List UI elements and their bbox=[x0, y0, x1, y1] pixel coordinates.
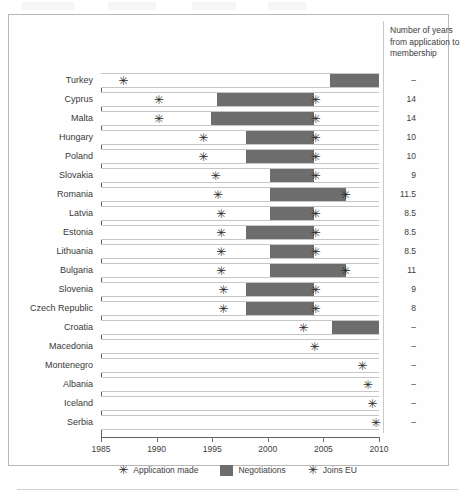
category-label: Poland bbox=[9, 149, 97, 164]
negotiations-bar bbox=[211, 112, 314, 125]
joins-eu-marker: ✳ bbox=[311, 227, 321, 239]
application-made-marker: ✳ bbox=[118, 75, 128, 87]
x-axis-tick-label: 2010 bbox=[370, 444, 389, 454]
category-label: Serbia bbox=[9, 415, 97, 430]
x-axis-line bbox=[101, 437, 380, 438]
negotiations-bar bbox=[270, 245, 314, 258]
chart-row: ✳✳ bbox=[101, 111, 379, 126]
x-axis-tick bbox=[323, 437, 324, 442]
chart-row: ✳✳ bbox=[101, 282, 379, 297]
category-label: Macedonia bbox=[9, 339, 97, 354]
eu-accession-timeline-chart: Number of years from application to memb… bbox=[8, 14, 449, 466]
x-axis-tick bbox=[268, 437, 269, 442]
years-value: 11 bbox=[390, 263, 430, 278]
application-made-marker: ✳ bbox=[211, 170, 221, 182]
row-track bbox=[101, 244, 379, 259]
legend-item: Negotiations bbox=[220, 465, 285, 476]
application-made-marker: ✳ bbox=[154, 113, 164, 125]
category-label-text: Slovenia bbox=[9, 282, 93, 297]
category-label-text: Serbia bbox=[9, 415, 93, 430]
joins-eu-marker: ✳ bbox=[311, 113, 321, 125]
application-made-marker: ✳ bbox=[363, 379, 373, 391]
application-made-marker: ✳ bbox=[198, 151, 208, 163]
negotiations-bar bbox=[270, 188, 346, 201]
years-value: – bbox=[390, 358, 430, 373]
scan-artifact bbox=[22, 2, 74, 10]
category-label-text: Albania bbox=[9, 377, 93, 392]
category-label: Malta bbox=[9, 111, 97, 126]
years-value: – bbox=[390, 415, 430, 430]
chart-row: ✳ bbox=[101, 415, 379, 430]
legend-item-label: Negotiations bbox=[238, 465, 285, 475]
negotiations-bar bbox=[246, 302, 315, 315]
category-label-text: Lithuania bbox=[9, 244, 93, 259]
joins-eu-marker: ✳ bbox=[311, 170, 321, 182]
chart-row: ✳✳ bbox=[101, 301, 379, 316]
row-track bbox=[101, 225, 379, 240]
years-value-text: 10 bbox=[390, 149, 416, 164]
chart-row: ✳✳ bbox=[101, 130, 379, 145]
legend-item: ✳Application made bbox=[118, 464, 198, 476]
years-value-text: 11 bbox=[390, 263, 416, 278]
application-made-marker: ✳ bbox=[367, 398, 377, 410]
years-value: 14 bbox=[390, 92, 430, 107]
x-axis-tick-label: 2000 bbox=[258, 444, 277, 454]
chart-row: ✳✳ bbox=[101, 92, 379, 107]
row-track bbox=[101, 396, 379, 411]
negotiations-bar bbox=[332, 321, 379, 334]
category-label: Lithuania bbox=[9, 244, 97, 259]
scan-artifact bbox=[192, 2, 236, 10]
chart-row: ✳✳ bbox=[101, 149, 379, 164]
years-value-text: 10 bbox=[390, 130, 416, 145]
years-value-text: – bbox=[390, 358, 416, 373]
row-track bbox=[101, 415, 379, 430]
application-made-marker: ✳ bbox=[218, 284, 228, 296]
negotiations-bar bbox=[270, 169, 314, 182]
chart-row: ✳ bbox=[101, 320, 379, 335]
category-label: Slovakia bbox=[9, 168, 97, 183]
years-value: – bbox=[390, 377, 430, 392]
application-made-marker: ✳ bbox=[213, 189, 223, 201]
chart-legend: ✳Application madeNegotiations✳Joins EU bbox=[17, 458, 458, 482]
joins-eu-marker: ✳ bbox=[311, 284, 321, 296]
row-track bbox=[101, 339, 379, 354]
row-track bbox=[101, 130, 379, 145]
row-track bbox=[101, 168, 379, 183]
plot-area: ✳✳✳✳✳✳✳✳✳✳✳✳✳✳✳✳✳✳✳✳✳✳✳✳✳✳✳✳✳✳✳ bbox=[101, 73, 379, 436]
negotiations-bar bbox=[246, 283, 315, 296]
category-label-text: Estonia bbox=[9, 225, 93, 240]
chart-row: ✳✳ bbox=[101, 244, 379, 259]
scan-artifact bbox=[268, 2, 306, 10]
joins-eu-marker: ✳ bbox=[311, 246, 321, 258]
negotiations-bar bbox=[330, 74, 379, 87]
category-label-text: Bulgaria bbox=[9, 263, 93, 278]
years-value-text: – bbox=[390, 396, 416, 411]
category-label: Croatia bbox=[9, 320, 97, 335]
row-track bbox=[101, 301, 379, 316]
chart-row: ✳✳ bbox=[101, 187, 379, 202]
row-track bbox=[101, 282, 379, 297]
x-axis-tick bbox=[101, 437, 102, 442]
category-label-text: Slovakia bbox=[9, 168, 93, 183]
years-value: – bbox=[390, 396, 430, 411]
asterisk-icon: ✳ bbox=[118, 464, 128, 476]
category-label-text: Malta bbox=[9, 111, 93, 126]
category-label-text: Croatia bbox=[9, 320, 93, 335]
years-value: 8 bbox=[390, 301, 430, 316]
years-value-text: 8.5 bbox=[390, 225, 416, 240]
chart-row: ✳ bbox=[101, 358, 379, 373]
years-value: 10 bbox=[390, 130, 430, 145]
category-label-text: Iceland bbox=[9, 396, 93, 411]
application-made-marker: ✳ bbox=[154, 94, 164, 106]
years-value: 9 bbox=[390, 168, 430, 183]
joins-eu-marker: ✳ bbox=[341, 189, 351, 201]
x-axis-tick bbox=[212, 437, 213, 442]
legend-item-label: Joins EU bbox=[323, 465, 357, 475]
chart-row: ✳ bbox=[101, 396, 379, 411]
category-label: Estonia bbox=[9, 225, 97, 240]
years-value-text: – bbox=[390, 415, 416, 430]
category-label: Slovenia bbox=[9, 282, 97, 297]
category-label: Romania bbox=[9, 187, 97, 202]
scan-artifact bbox=[108, 2, 156, 10]
negotiations-bar bbox=[270, 264, 346, 277]
